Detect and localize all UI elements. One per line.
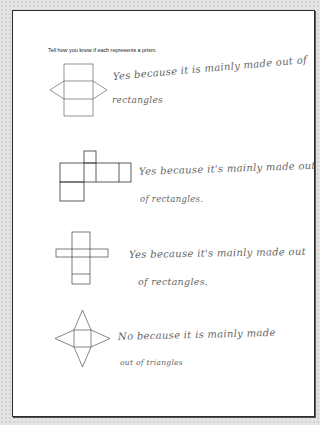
answer-2-line-2: of rectangles. — [140, 195, 203, 204]
answer-4-line-2: out of triangles — [120, 359, 183, 367]
answer-1-line-2: rectangles — [112, 96, 163, 105]
answer-3-line-2: of rectangles. — [138, 277, 208, 287]
rectangular-prism-net-figure — [58, 150, 134, 206]
rectangular-prism-net-cross-figure — [54, 230, 112, 286]
triangular-prism-net-figure — [48, 62, 110, 120]
square-pyramid-net-figure — [53, 309, 113, 369]
worksheet-prompt: Tell how you know if each represents a p… — [48, 47, 157, 53]
